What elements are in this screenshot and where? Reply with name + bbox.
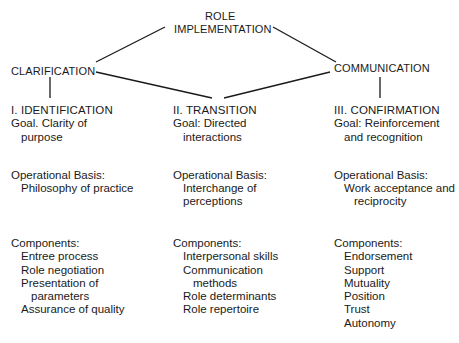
- basis-line: perceptions: [173, 195, 267, 208]
- component-item: Mutuality: [334, 277, 412, 290]
- basis-line: Interchange of: [173, 182, 267, 195]
- goal-line: and recognition: [334, 131, 455, 144]
- components-label: Components:: [173, 237, 278, 250]
- top-node-role: ROLE: [205, 10, 235, 23]
- column-heading: II. TRANSITION: [173, 104, 267, 117]
- components-label: Components:: [11, 237, 125, 250]
- component-item: Communication: [173, 264, 278, 277]
- components-confirmation: Components: Endorsement Support Mutualit…: [334, 237, 412, 330]
- column-identification: I. IDENTIFICATION Goal. Clarity of purpo…: [11, 104, 134, 195]
- column-confirmation: III. CONFIRMATION Goal: Reinforcement an…: [334, 104, 455, 209]
- goal-line: Goal: Directed: [173, 117, 267, 130]
- component-item: Role determinants: [173, 290, 278, 303]
- goal-line: Goal: Reinforcement: [334, 117, 455, 130]
- component-item: Interpersonal skills: [173, 250, 278, 263]
- connector-communication-to-transition: [224, 72, 330, 98]
- column-transition: II. TRANSITION Goal: Directed interactio…: [173, 104, 267, 209]
- connector-top-to-clarification: [96, 27, 165, 62]
- component-item: Support: [334, 264, 412, 277]
- goal-line: interactions: [173, 131, 267, 144]
- component-item: Role negotiation: [11, 264, 125, 277]
- top-node-implementation: IMPLEMENTATION: [174, 23, 272, 36]
- connector-clarification-to-transition: [96, 72, 212, 98]
- column-heading: I. IDENTIFICATION: [11, 104, 134, 117]
- goal-line: purpose: [11, 131, 134, 144]
- component-item: parameters: [11, 290, 125, 303]
- basis-line: Work acceptance and: [334, 182, 455, 195]
- connector-top-to-communication: [273, 27, 336, 62]
- basis-label: Operational Basis:: [11, 169, 134, 182]
- component-item: Entree process: [11, 250, 125, 263]
- component-item: Position: [334, 290, 412, 303]
- basis-label: Operational Basis:: [334, 169, 455, 182]
- component-item: Trust: [334, 303, 412, 316]
- component-item: Autonomy: [334, 317, 412, 330]
- basis-line: reciprocity: [334, 195, 455, 208]
- goal-line: Goal. Clarity of: [11, 117, 134, 130]
- node-clarification: CLARIFICATION: [11, 65, 95, 78]
- component-item: Presentation of: [11, 277, 125, 290]
- components-identification: Components: Entree process Role negotiat…: [11, 237, 125, 317]
- column-heading: III. CONFIRMATION: [334, 104, 455, 117]
- components-transition: Components: Interpersonal skills Communi…: [173, 237, 278, 317]
- component-item: Endorsement: [334, 250, 412, 263]
- component-item: methods: [173, 277, 278, 290]
- component-item: Role repertoire: [173, 303, 278, 316]
- components-label: Components:: [334, 237, 412, 250]
- component-item: Assurance of quality: [11, 303, 125, 316]
- basis-label: Operational Basis:: [173, 169, 267, 182]
- basis-line: Philosophy of practice: [11, 182, 134, 195]
- node-communication: COMMUNICATION: [334, 62, 430, 75]
